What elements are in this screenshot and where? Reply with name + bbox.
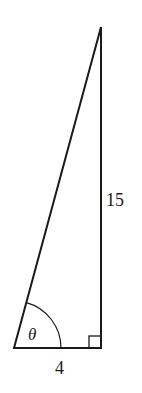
triangle — [14, 27, 101, 348]
triangle-diagram: θ 4 15 — [0, 0, 142, 393]
angle-label: θ — [28, 325, 36, 344]
right-angle-marker — [89, 336, 101, 348]
base-label: 4 — [55, 358, 64, 378]
height-label: 15 — [106, 190, 124, 210]
